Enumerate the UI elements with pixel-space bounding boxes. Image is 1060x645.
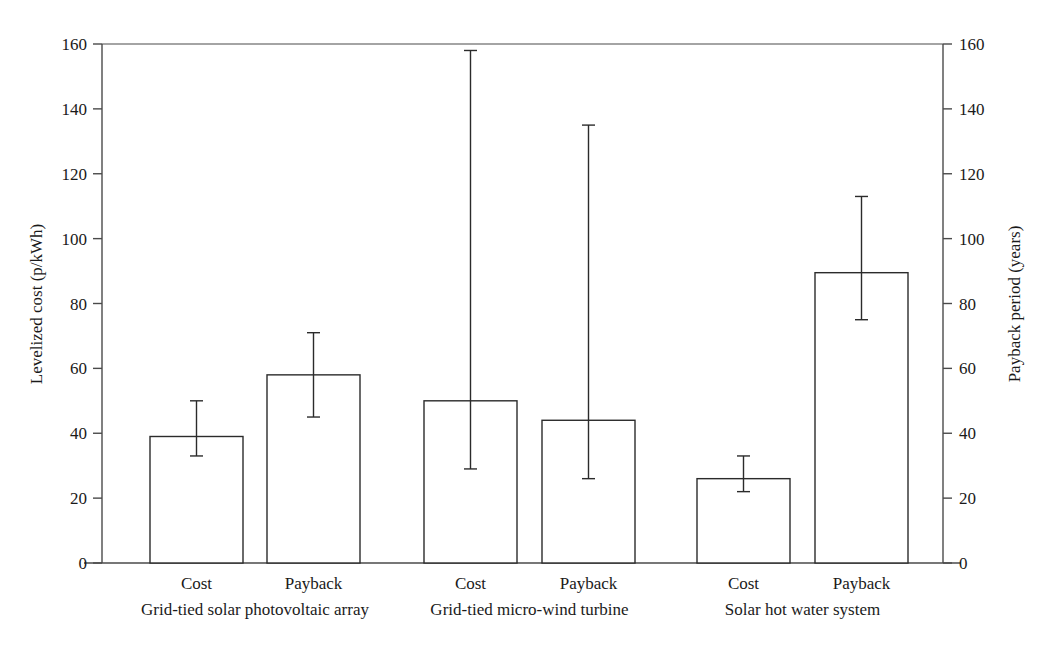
right-tick-label: 120: [959, 165, 985, 184]
right-tick-label: 60: [959, 359, 976, 378]
left-tick-label: 100: [62, 230, 88, 249]
group-label: Grid-tied solar photovoltaic array: [141, 600, 370, 619]
left-tick-label: 60: [70, 359, 87, 378]
right-tick-label: 100: [959, 230, 985, 249]
right-tick-label: 160: [959, 35, 985, 54]
category-label-cost: Cost: [728, 574, 759, 593]
category-label-cost: Cost: [455, 574, 486, 593]
group-label: Solar hot water system: [725, 600, 880, 619]
right-axis-title: Payback period (years): [1005, 226, 1024, 383]
group-label: Grid-tied micro-wind turbine: [430, 600, 628, 619]
left-tick-label: 120: [62, 165, 88, 184]
left-tick-label: 40: [70, 424, 87, 443]
right-tick-label: 40: [959, 424, 976, 443]
grouped-bar-chart-with-error-bars: 020406080100120140160 020406080100120140…: [0, 0, 1060, 645]
right-tick-label: 140: [959, 100, 985, 119]
right-tick-label: 0: [959, 554, 968, 573]
left-axis-title: Levelized cost (p/kWh): [27, 224, 46, 385]
left-tick-label: 0: [79, 554, 88, 573]
chart-figure: 020406080100120140160 020406080100120140…: [0, 0, 1060, 645]
left-tick-label: 140: [62, 100, 88, 119]
category-label-payback: Payback: [833, 574, 891, 593]
left-tick-label: 80: [70, 295, 87, 314]
category-label-payback: Payback: [285, 574, 343, 593]
category-label-cost: Cost: [181, 574, 212, 593]
left-tick-label: 160: [62, 35, 88, 54]
right-tick-label: 20: [959, 489, 976, 508]
right-tick-label: 80: [959, 295, 976, 314]
category-label-payback: Payback: [560, 574, 618, 593]
left-tick-label: 20: [70, 489, 87, 508]
